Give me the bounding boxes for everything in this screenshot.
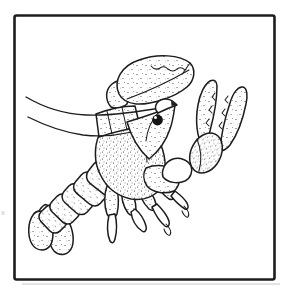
illustration-canvas: Black-and-white line drawing of a lobste… (0, 0, 286, 287)
lobster-line-drawing: Black-and-white line drawing of a lobste… (0, 0, 286, 287)
eye (152, 115, 163, 126)
paper-speck (2, 211, 5, 215)
eye-highlight (154, 116, 157, 119)
right-claw-arm (162, 158, 191, 182)
frame-shadow (22, 283, 280, 285)
